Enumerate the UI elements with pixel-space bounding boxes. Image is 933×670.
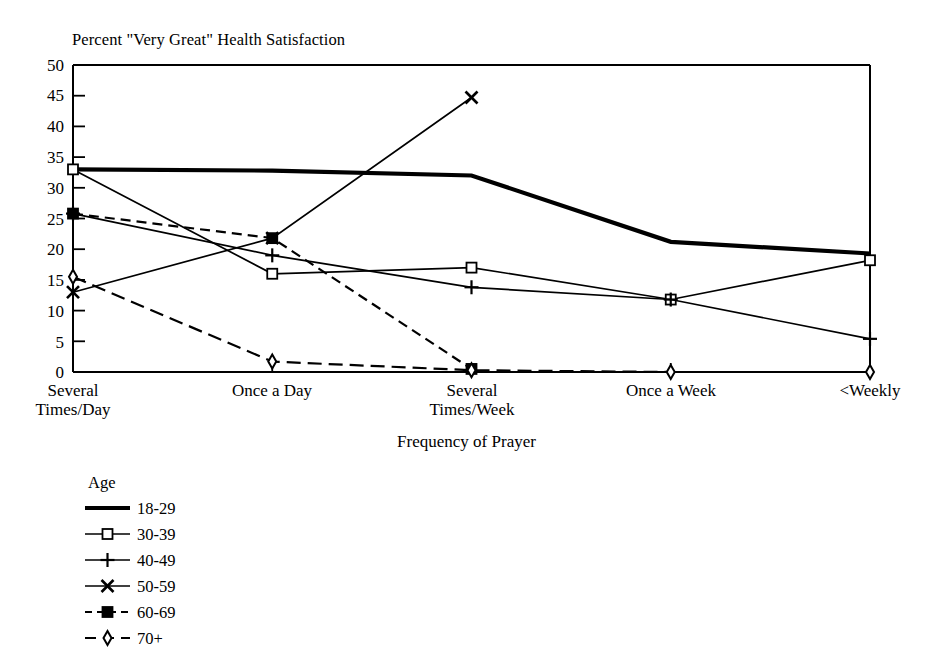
ytick-label-40: 40 <box>30 118 64 135</box>
legend-swatch-40-49 <box>85 553 130 567</box>
xtick-label-several-times-week: Several Times/Week <box>412 381 532 419</box>
xtick-label-several-times-day: Several Times/Day <box>13 381 133 419</box>
ytick-label-45: 45 <box>30 87 64 104</box>
series-50-59 <box>67 92 478 299</box>
legend-title: Age <box>88 473 116 493</box>
legend-label-40-49: 40-49 <box>137 552 176 570</box>
xtick-label-once-a-week: Once a Week <box>611 381 731 400</box>
ytick-label-10: 10 <box>30 303 64 320</box>
legend-label-18-29: 18-29 <box>137 500 176 518</box>
ytick-label-20: 20 <box>30 241 64 258</box>
legend-label-50-59: 50-59 <box>137 578 176 596</box>
ytick-label-50: 50 <box>30 57 64 74</box>
legend-label-70plus: 70+ <box>137 630 163 648</box>
chart-title: Percent "Very Great" Health Satisfaction <box>72 30 345 50</box>
x-axis-title: Frequency of Prayer <box>0 432 933 452</box>
legend-swatch-30-39 <box>85 529 130 539</box>
axes-frame <box>73 65 870 372</box>
ytick-label-15: 15 <box>30 272 64 289</box>
series-70 <box>69 270 874 379</box>
legend-swatch-50-59 <box>85 580 130 592</box>
legend-swatch-70 <box>85 631 130 645</box>
xtick-label-less-than-weekly: <Weekly <box>810 381 930 400</box>
ytick-label-5: 5 <box>30 334 64 351</box>
series-40-49 <box>66 207 877 346</box>
series-18-29 <box>73 169 870 253</box>
legend-label-60-69: 60-69 <box>137 604 176 622</box>
series-60-69 <box>68 209 477 374</box>
xtick-label-once-a-day: Once a Day <box>212 381 332 400</box>
series-30-39 <box>68 164 875 304</box>
ytick-label-35: 35 <box>30 149 64 166</box>
ytick-label-25: 25 <box>30 211 64 228</box>
ytick-label-0: 0 <box>30 364 64 381</box>
ytick-label-30: 30 <box>30 180 64 197</box>
x-tick-marks <box>272 363 671 372</box>
legend-label-30-39: 30-39 <box>137 526 176 544</box>
chart-figure: Percent "Very Great" Health Satisfaction… <box>0 0 933 670</box>
y-tick-marks <box>73 96 85 372</box>
legend-swatch-60-69 <box>85 607 130 617</box>
